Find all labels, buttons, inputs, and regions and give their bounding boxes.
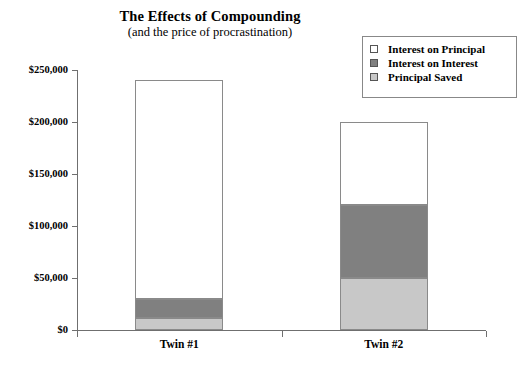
y-axis-tick-label: $150,000 xyxy=(4,168,68,179)
x-axis-tick xyxy=(282,331,283,337)
bar-segment xyxy=(340,205,428,278)
y-axis-tick xyxy=(72,278,78,279)
x-axis-tick-label: Twin #1 xyxy=(119,338,239,350)
plot-area: $0$50,000$100,000$150,000$200,000$250,00… xyxy=(0,0,523,368)
chart-page: The Effects of Compounding (and the pric… xyxy=(0,0,523,368)
y-axis-tick xyxy=(72,174,78,175)
bar-segment xyxy=(340,122,428,205)
y-axis-tick-label-wrap: $100,000 xyxy=(0,220,68,232)
y-axis-tick-label-wrap: $250,000 xyxy=(0,64,68,76)
x-axis-tick xyxy=(486,331,487,337)
y-axis-tick-label-wrap: $50,000 xyxy=(0,272,68,284)
y-axis-tick xyxy=(72,70,78,71)
x-axis-tick-label: Twin #2 xyxy=(324,338,444,350)
bar-segment xyxy=(340,278,428,330)
y-axis-tick-label: $100,000 xyxy=(4,220,68,231)
y-axis-tick xyxy=(72,226,78,227)
y-axis-tick-label: $250,000 xyxy=(4,64,68,75)
bar-segment xyxy=(135,80,223,298)
y-axis-line xyxy=(77,70,78,331)
y-axis-tick-label-wrap: $0 xyxy=(0,324,68,336)
y-axis-tick-label: $50,000 xyxy=(4,272,68,283)
bar-segment xyxy=(135,318,223,330)
y-axis-tick-label: $200,000 xyxy=(4,116,68,127)
y-axis-tick xyxy=(72,122,78,123)
x-axis-tick xyxy=(77,331,78,337)
y-axis-tick-label-wrap: $150,000 xyxy=(0,168,68,180)
bar-segment xyxy=(135,299,223,318)
y-axis-tick-label: $0 xyxy=(4,324,68,335)
y-axis-tick-label-wrap: $200,000 xyxy=(0,116,68,128)
